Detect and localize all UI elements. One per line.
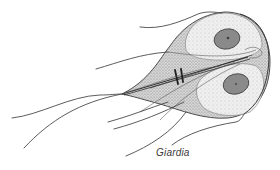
nucleolus-lower xyxy=(235,83,237,85)
figure-caption: Giardia xyxy=(156,147,190,158)
flagellum-left-lower xyxy=(24,94,122,148)
giardia-illustration xyxy=(0,0,280,170)
nucleolus-upper xyxy=(227,37,230,40)
flagellum-posterior-2 xyxy=(172,114,244,145)
flagellum-ventral-1 xyxy=(108,102,168,122)
